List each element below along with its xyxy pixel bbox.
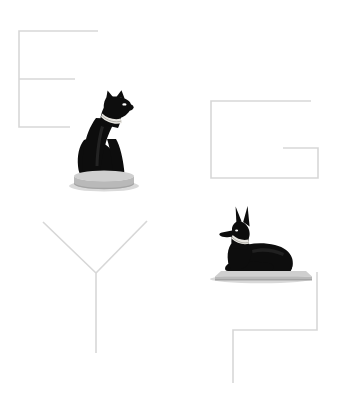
cat-statue-bastet [69,90,139,191]
letter-g [211,101,318,178]
cat-muzzle [127,104,134,111]
jackal-base-edge [215,279,312,280]
letter-p [233,272,317,383]
cat-head [104,97,132,119]
cat-base [74,171,134,190]
jackal-ear-left [236,206,242,223]
jackal-base-top [215,271,312,276]
letter-e [19,31,98,127]
letter-y [43,221,147,353]
cat-figure [78,90,134,176]
artwork-svg [0,0,340,405]
cat-base-top [74,171,134,182]
composition-canvas [0,0,340,405]
jackal-figure [219,206,292,271]
letter-y-right-arm [96,221,147,273]
letter-y-left-arm-and-stem [43,222,96,353]
cat-eye [122,103,126,105]
jackal-statue-anubis [210,206,312,283]
jackal-base [215,271,312,280]
jackal-eye [235,229,238,231]
letter-g-outline [211,101,318,178]
letter-p-outline [233,272,317,383]
